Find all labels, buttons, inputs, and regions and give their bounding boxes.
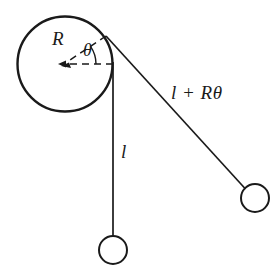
diagonal-string: [106, 36, 246, 189]
angle-label: θ: [83, 41, 92, 59]
left-bob: [99, 236, 127, 264]
radius-label: R: [52, 29, 64, 48]
diagram-canvas: [0, 0, 279, 272]
right-bob: [241, 184, 269, 212]
left-string-length-label: l: [121, 142, 126, 161]
right-string-length-label: l + Rθ: [171, 83, 223, 102]
pulley-diagram: R θ l l + Rθ: [0, 0, 279, 272]
